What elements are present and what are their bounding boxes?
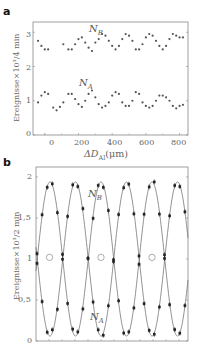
chart-a-frame bbox=[33, 22, 188, 135]
chart-a-xtick-600: 600 bbox=[139, 138, 154, 147]
chart-a-ytick-0: 0 bbox=[26, 129, 31, 138]
chart-a-label-na: NA bbox=[79, 77, 93, 91]
chart-b-lines bbox=[36, 179, 188, 337]
chart-b-label-nb: NB bbox=[88, 188, 102, 202]
chart-a-xtick-200: 200 bbox=[74, 138, 89, 147]
chart-a-ytick-3: 3 bbox=[26, 30, 31, 39]
chart-b-ytick-1: 1 bbox=[27, 254, 32, 263]
chart-a-ylabel: Ereignisse×10³/4 min bbox=[12, 34, 21, 122]
xlabel-symbol: ΔD bbox=[84, 148, 98, 159]
chart-b-ytick-0.5: 0,5 bbox=[18, 295, 31, 304]
chart-a-xlabel: ΔDAl(μm) bbox=[84, 148, 128, 162]
chart-b-ytick-1.5: 1,5 bbox=[18, 213, 31, 222]
chart-a-label-nb: NB bbox=[89, 23, 103, 37]
chart-a-xtick-800: 800 bbox=[171, 138, 186, 147]
chart-a-ytick-1: 1 bbox=[26, 96, 31, 105]
xlabel-unit: (μm) bbox=[105, 148, 128, 159]
chart-a-xtick-0: 0 bbox=[49, 138, 54, 147]
chart-b-label-na: NA bbox=[90, 311, 104, 325]
chart-a-xtick-400: 400 bbox=[107, 138, 122, 147]
chart-b-ytick-2: 2 bbox=[27, 172, 32, 181]
chart-a-ytick-2: 2 bbox=[26, 63, 31, 72]
chart-b-ytick-0: 0 bbox=[27, 336, 32, 343]
chart-b-ylabel: Ereignisse×10³/2 min bbox=[12, 212, 21, 300]
chart-a-points bbox=[37, 33, 184, 112]
